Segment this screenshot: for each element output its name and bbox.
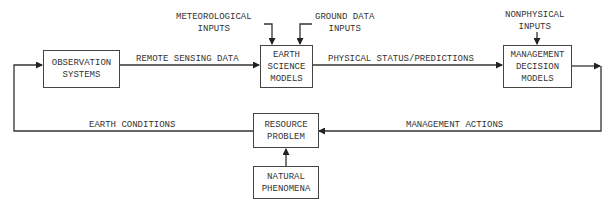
management-decision-models-box: MANAGEMENT DECISION MODELS	[503, 45, 572, 88]
nonphysical-inputs-label: NONPHYSICAL INPUTS	[505, 9, 564, 33]
natural-phenomena-box: NATURAL PHENOMENA	[253, 166, 319, 199]
management-actions-label: MANAGEMENT ACTIONS	[406, 119, 503, 131]
earth-conditions-label: EARTH CONDITIONS	[89, 119, 175, 131]
earth-science-models-box: EARTH SCIENCE MODELS	[260, 45, 313, 88]
observation-systems-box: OBSERVATION SYSTEMS	[43, 50, 120, 88]
physical-status-predictions-label: PHYSICAL STATUS/PREDICTIONS	[328, 53, 474, 65]
resource-problem-box: RESOURCE PROBLEM	[253, 113, 319, 148]
ground-data-inputs-label: GROUND DATA INPUTS	[315, 11, 374, 35]
remote-sensing-data-label: REMOTE SENSING DATA	[136, 53, 239, 65]
meteorological-inputs-label: METEOROLOGICAL INPUTS	[176, 11, 252, 35]
